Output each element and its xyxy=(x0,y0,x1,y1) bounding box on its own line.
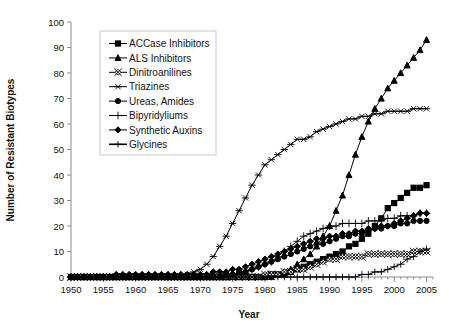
x-tick-label: 1950 xyxy=(60,284,81,295)
x-tick-label: 1990 xyxy=(319,284,340,295)
legend-item-label: Bipyridyliums xyxy=(129,110,188,121)
marker-open-diamond-x xyxy=(371,250,379,258)
marker-open-diamond-x xyxy=(397,250,405,258)
y-tick-label: 0 xyxy=(59,272,64,283)
marker-circle xyxy=(417,218,422,223)
legend-item-dinitroanilines[interactable]: Dinitroanilines xyxy=(109,67,192,78)
marker-square xyxy=(424,183,429,188)
y-tick-label: 70 xyxy=(53,93,64,104)
x-tick-label: 2000 xyxy=(384,284,405,295)
marker-square xyxy=(115,41,120,46)
legend-item-label: ACCase Inhibitors xyxy=(129,38,210,49)
marker-square xyxy=(392,200,397,205)
y-tick-label: 60 xyxy=(53,119,64,130)
legend-item-label: Triazines xyxy=(129,81,169,92)
x-tick-label: 1970 xyxy=(190,284,211,295)
marker-open-diamond-x xyxy=(377,250,385,258)
marker-open-diamond-x xyxy=(339,253,347,261)
marker-open-diamond-x xyxy=(293,266,301,274)
y-axis-title: Number of Resistant Biotypes xyxy=(5,78,16,221)
marker-circle xyxy=(115,99,120,104)
y-tick-label: 20 xyxy=(53,221,64,232)
marker-square xyxy=(411,185,416,190)
x-tick-label: 1965 xyxy=(157,284,178,295)
marker-open-diamond-x xyxy=(306,263,314,271)
y-tick-label: 30 xyxy=(53,195,64,206)
x-axis-title: Year xyxy=(238,309,259,320)
x-tick-label: 2005 xyxy=(416,284,437,295)
marker-square xyxy=(417,185,422,190)
y-tick-label: 40 xyxy=(53,170,64,181)
marker-open-diamond-x xyxy=(384,250,392,258)
marker-open-diamond-x xyxy=(114,69,122,77)
chart-container: 0102030405060708090100 19501955196019651… xyxy=(0,0,449,327)
marker-open-diamond-x xyxy=(390,250,398,258)
marker-square xyxy=(353,241,358,246)
legend-item-label: Glycines xyxy=(129,139,167,150)
chart-legend[interactable]: ACCase InhibitorsALS InhibitorsDinitroan… xyxy=(100,31,216,155)
legend-item-label: Dinitroanilines xyxy=(129,67,192,78)
legend-background xyxy=(100,31,216,155)
y-tick-label: 90 xyxy=(53,42,64,53)
marker-open-diamond-x xyxy=(313,260,321,268)
marker-circle xyxy=(424,218,429,223)
legend-item-label: ALS Inhibitors xyxy=(129,53,191,64)
y-tick-label: 10 xyxy=(53,246,64,257)
marker-open-diamond-x xyxy=(326,255,334,263)
x-tick-label: 1975 xyxy=(222,284,243,295)
marker-open-diamond-x xyxy=(358,253,366,261)
marker-open-diamond-x xyxy=(352,253,360,261)
resistant-biotypes-line-chart: 0102030405060708090100 19501955196019651… xyxy=(0,0,449,327)
marker-open-diamond-x xyxy=(332,255,340,263)
marker-square xyxy=(346,244,351,249)
y-tick-label: 80 xyxy=(53,68,64,79)
marker-square xyxy=(385,206,390,211)
x-tick-label: 1955 xyxy=(93,284,114,295)
marker-open-diamond-x xyxy=(319,258,327,266)
legend-item-label: Ureas, Amides xyxy=(129,96,194,107)
marker-square xyxy=(405,190,410,195)
legend-item-label: Synthetic Auxins xyxy=(129,125,202,136)
y-tick-label: 100 xyxy=(48,17,64,28)
marker-open-diamond-x xyxy=(365,250,373,258)
marker-square xyxy=(359,236,364,241)
x-tick-label: 1980 xyxy=(254,284,275,295)
marker-open-diamond-x xyxy=(300,266,308,274)
x-tick-label: 1960 xyxy=(125,284,146,295)
x-tick-label: 1995 xyxy=(351,284,372,295)
marker-open-diamond-x xyxy=(345,253,353,261)
marker-square xyxy=(398,195,403,200)
x-tick-label: 1985 xyxy=(287,284,308,295)
y-tick-label: 50 xyxy=(53,144,64,155)
